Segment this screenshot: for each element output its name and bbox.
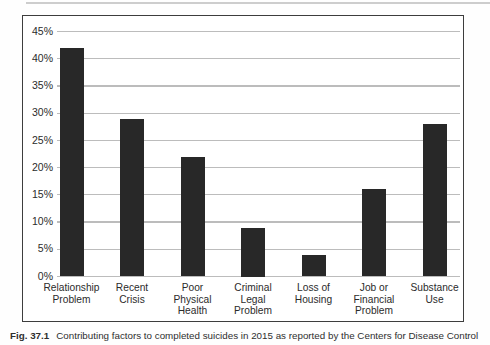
bar-loss-of-housing xyxy=(302,255,326,277)
figure-caption: Fig. 37.1Contributing factors to complet… xyxy=(10,330,478,341)
page-top-rule xyxy=(26,2,490,4)
y-gridline-45 xyxy=(57,31,460,32)
y-tick-label-45: 45% xyxy=(23,25,53,38)
bar-chart: 0%5%10%15%20%25%30%35%40%45%Relationship… xyxy=(22,15,464,322)
y-tick-label-40: 40% xyxy=(23,52,53,65)
bar-job-or-financial-problem xyxy=(362,189,386,276)
y-tick-label-10: 10% xyxy=(23,215,53,228)
figure-page: 0%5%10%15%20%25%30%35%40%45%Relationship… xyxy=(0,0,490,345)
y-tick-label-15: 15% xyxy=(23,188,53,201)
y-gridline-25 xyxy=(57,140,460,141)
y-tick-label-0: 0% xyxy=(23,270,53,283)
figure-number: Fig. 37.1 xyxy=(10,330,49,341)
y-tick-label-5: 5% xyxy=(23,242,53,255)
caption-text: Contributing factors to completed suicid… xyxy=(56,330,478,341)
y-gridline-40 xyxy=(57,58,460,59)
y-gridline-10 xyxy=(57,221,460,222)
y-tick-label-20: 20% xyxy=(23,161,53,174)
bar-poor-physical-health xyxy=(181,157,205,277)
y-gridline-30 xyxy=(57,113,460,114)
y-gridline-15 xyxy=(57,194,460,195)
bar-relationship-problem xyxy=(60,48,84,277)
bar-substance-use xyxy=(423,124,447,276)
y-tick-label-25: 25% xyxy=(23,134,53,147)
x-label-substance-use: SubstanceUse xyxy=(387,282,483,305)
y-tick-label-35: 35% xyxy=(23,79,53,92)
y-tick-label-30: 30% xyxy=(23,106,53,119)
y-gridline-20 xyxy=(57,167,460,168)
y-gridline-35 xyxy=(57,85,460,86)
bar-recent-crisis xyxy=(120,119,144,277)
bar-criminal-legal-problem xyxy=(241,228,265,277)
